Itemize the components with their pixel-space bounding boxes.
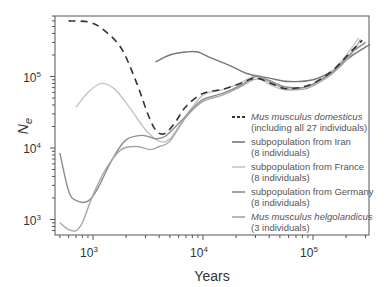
legend-label: subpopulation from France	[251, 161, 364, 172]
y-tick-label: 105	[23, 70, 41, 85]
x-tick-label: 103	[80, 245, 98, 260]
legend-detail: (including all 27 individuals)	[251, 122, 367, 133]
legend-label: Mus musculus helgolandicus	[251, 211, 373, 222]
y-tick-label: 103	[23, 213, 41, 228]
legend-label: Mus musculus domesticus	[251, 111, 363, 122]
series-line	[156, 45, 371, 82]
x-axis-title: Years	[194, 268, 229, 284]
legend-label: subpopulation from Iran	[251, 136, 351, 147]
legend-detail: (3 individuals)	[251, 222, 310, 233]
y-tick-label: 104	[23, 141, 41, 156]
legend-label: subpopulation from Germany	[251, 186, 374, 197]
legend-detail: (8 individuals)	[251, 197, 310, 208]
legend-detail: (8 individuals)	[251, 147, 310, 158]
ne-history-chart: 103104105103104105 Years Ne Mus musculus…	[0, 0, 386, 287]
x-tick-label: 105	[300, 245, 318, 260]
legend: Mus musculus domesticus(including all 27…	[232, 111, 374, 233]
y-axis-title: Ne	[15, 118, 34, 134]
legend-detail: (8 individuals)	[251, 172, 310, 183]
x-tick-label: 104	[190, 245, 208, 260]
